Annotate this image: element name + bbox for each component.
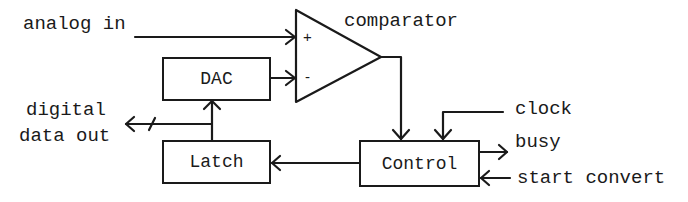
control-block: Control — [359, 140, 480, 187]
start-convert-label: start convert — [517, 168, 665, 188]
comparator-plus-sign: + — [303, 28, 312, 45]
busy-label: busy — [515, 132, 561, 152]
dac-block: DAC — [162, 57, 271, 101]
latch-block: Latch — [162, 140, 271, 184]
comparator-minus-sign: - — [305, 68, 310, 85]
digital-out-label-line1: digital — [26, 100, 106, 120]
analog-in-label: analog in — [23, 14, 126, 34]
comparator-label: comparator — [344, 11, 458, 31]
clock-label: clock — [515, 99, 572, 119]
digital-out-label-line2: data out — [19, 126, 110, 146]
